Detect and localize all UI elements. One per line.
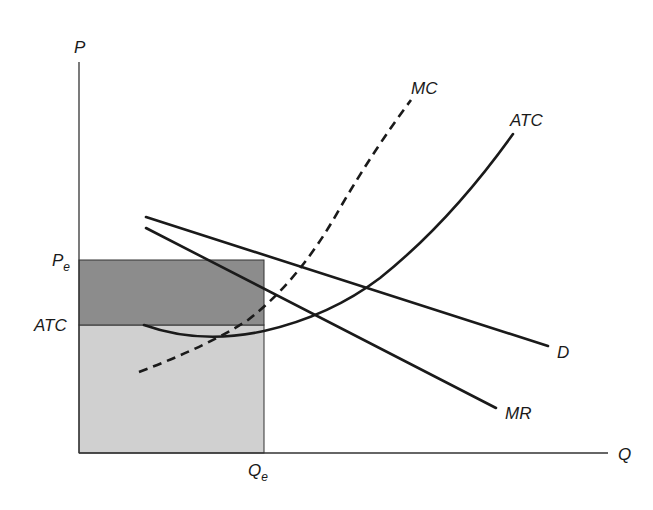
profit-region — [79, 260, 264, 325]
mc-label: MC — [411, 79, 438, 98]
qe-label: Qe — [248, 461, 268, 484]
total-cost-region — [79, 325, 264, 453]
atc-curve-label: ATC — [509, 111, 543, 130]
x-axis-label: Q — [618, 445, 631, 464]
mr-label: MR — [505, 404, 531, 423]
monopoly-diagram: P Q Pe ATC Qe MC ATC D MR — [0, 0, 653, 510]
y-axis-label: P — [74, 38, 86, 57]
demand-label: D — [557, 343, 569, 362]
pe-label: Pe — [52, 251, 70, 274]
atc-tick-label: ATC — [33, 316, 67, 335]
